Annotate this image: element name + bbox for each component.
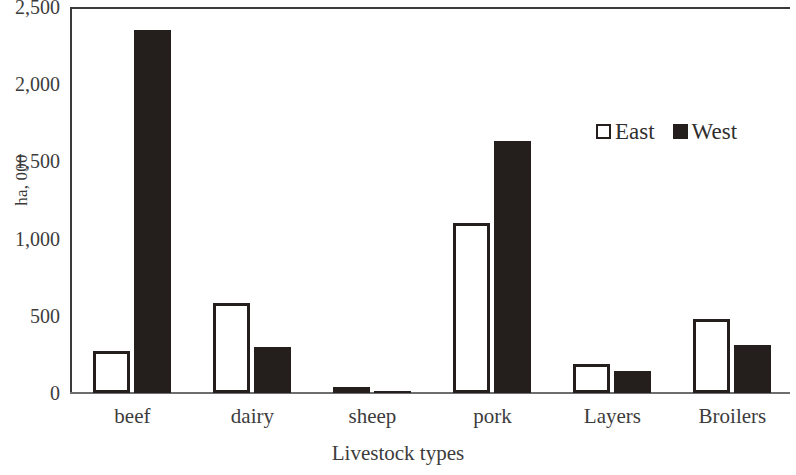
bar-broilers-east bbox=[693, 319, 730, 393]
x-axis-label-pork: pork bbox=[473, 404, 512, 429]
y-axis-tick-label: 0 bbox=[50, 383, 60, 403]
bar-pork-east bbox=[453, 223, 490, 393]
x-axis-label-layers: Layers bbox=[584, 404, 641, 429]
hollow-square-icon bbox=[596, 124, 611, 139]
x-axis-label-beef: beef bbox=[114, 404, 150, 429]
x-axis-title: Livestock types bbox=[0, 441, 796, 466]
bar-dairy-west bbox=[254, 347, 291, 393]
bar-sheep-east bbox=[333, 387, 370, 393]
y-axis-tick-label: 2,500 bbox=[15, 0, 60, 17]
x-axis-label-sheep: sheep bbox=[348, 404, 396, 429]
filled-square-icon bbox=[673, 124, 688, 139]
y-axis-tick-label: 1,000 bbox=[15, 229, 60, 249]
bar-pork-west bbox=[494, 141, 531, 393]
bar-chart: ha, 000 05001,0001,5002,0002,500 beefdai… bbox=[0, 0, 796, 475]
bar-layers-west bbox=[614, 371, 651, 393]
x-axis-category-labels: beefdairysheepporkLayersBroilers bbox=[70, 404, 790, 438]
chart-legend: East West bbox=[596, 120, 737, 143]
legend-item-east[interactable]: East bbox=[596, 120, 655, 143]
bar-dairy-east bbox=[213, 303, 250, 393]
y-axis-tick-label: 2,000 bbox=[15, 74, 60, 94]
x-axis-label-broilers: Broilers bbox=[699, 404, 767, 429]
bar-broilers-west bbox=[734, 345, 771, 393]
bar-layers-east bbox=[573, 364, 610, 393]
bar-beef-west bbox=[134, 30, 171, 393]
bar-sheep-west bbox=[374, 391, 411, 393]
x-axis-label-dairy: dairy bbox=[231, 404, 274, 429]
y-axis-tick-label: 500 bbox=[30, 306, 60, 326]
legend-label-east: East bbox=[615, 120, 655, 143]
bars-layer bbox=[70, 7, 790, 393]
bar-beef-east bbox=[93, 351, 130, 393]
legend-item-west[interactable]: West bbox=[673, 120, 737, 143]
y-axis-tick-labels: 05001,0001,5002,0002,500 bbox=[0, 0, 66, 475]
y-axis-tick-label: 1,500 bbox=[15, 151, 60, 171]
legend-label-west: West bbox=[692, 120, 737, 143]
